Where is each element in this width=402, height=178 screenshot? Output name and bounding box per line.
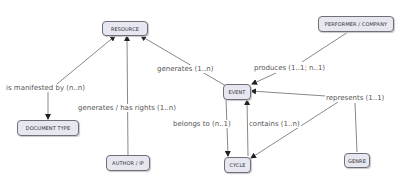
node-author-ip[interactable]: AUTHOR / IP: [106, 155, 150, 171]
edge-produces-from-performer: [302, 32, 348, 62]
label-contains: contains (1..n): [248, 120, 301, 128]
node-event[interactable]: EVENT: [223, 84, 251, 100]
label-belongs: belongs to (n..1): [172, 120, 232, 128]
edge-produces-to-event: [252, 73, 276, 84]
edge-represents-to-cycle: [251, 102, 338, 158]
edge-manifested-to-resource: [57, 36, 115, 84]
edge-generates-to-resource: [141, 36, 226, 86]
node-resource[interactable]: RESOURCE: [102, 21, 148, 36]
edge-rights-to-resource: [127, 36, 128, 155]
node-performer-company[interactable]: PERFORMER / COMPANY: [318, 16, 394, 32]
node-document-type[interactable]: DOCUMENT TYPE: [17, 120, 79, 136]
label-represents: represents (1..1): [325, 94, 385, 102]
node-cycle[interactable]: CYCLE: [224, 157, 251, 173]
edge-contains-to-event: [247, 100, 248, 156]
edge-represents-to-event: [251, 91, 326, 96]
edge-represents-from-genre: [355, 103, 357, 152]
node-genre[interactable]: GENRE: [344, 153, 370, 168]
label-produces: produces (1..1; n..1): [253, 64, 326, 72]
label-rights: generates / has rights (1..n): [77, 104, 177, 112]
label-manifested: is manifested by (n..n): [5, 84, 86, 92]
label-generates: generates (1..n): [156, 65, 214, 73]
